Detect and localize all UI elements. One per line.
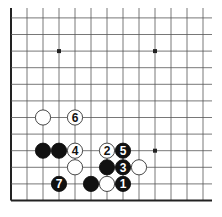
white-stone: [67, 160, 82, 175]
black-stone: [51, 143, 66, 158]
white-stone: 2: [99, 143, 114, 158]
black-stone: [35, 143, 50, 158]
white-stone: [131, 160, 146, 175]
star-point: [153, 49, 157, 53]
white-stone-disc: [67, 160, 82, 175]
white-stone: 6: [67, 110, 82, 125]
black-stone: [83, 176, 98, 191]
white-stone: [35, 110, 50, 125]
black-stone: [99, 160, 114, 175]
move-number-label: 2: [104, 144, 111, 158]
black-stone: 3: [115, 160, 130, 175]
move-number-label: 6: [72, 111, 79, 125]
black-stone-disc: [99, 160, 114, 175]
move-number-label: 7: [56, 177, 63, 191]
black-stone-disc: [51, 143, 66, 158]
black-stone-disc: [83, 176, 98, 191]
go-board: 6425371: [0, 0, 222, 217]
star-point: [57, 49, 61, 53]
star-point: [153, 149, 157, 153]
move-number-label: 1: [120, 177, 127, 191]
white-stone-disc: [35, 110, 50, 125]
move-number-label: 4: [72, 144, 79, 158]
white-stone-disc: [99, 176, 114, 191]
black-stone: 5: [115, 143, 130, 158]
black-stone: 1: [115, 176, 130, 191]
white-stone: [99, 176, 114, 191]
black-stone-disc: [35, 143, 50, 158]
move-number-label: 3: [120, 161, 127, 175]
black-stone: 7: [51, 176, 66, 191]
move-number-label: 5: [120, 144, 127, 158]
white-stone-disc: [131, 160, 146, 175]
white-stone: 4: [67, 143, 82, 158]
